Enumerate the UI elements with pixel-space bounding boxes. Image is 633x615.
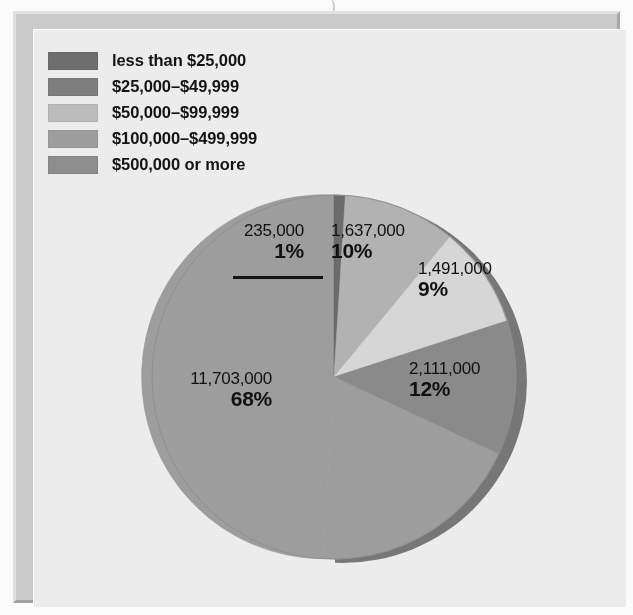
data-label-10pct: 1,637,000 10% bbox=[331, 222, 405, 262]
legend-item-1[interactable]: $25,000–$49,999 bbox=[48, 74, 257, 99]
legend-item-4[interactable]: $500,000 or more bbox=[48, 152, 257, 177]
data-label-1pct-value: 235,000 bbox=[184, 222, 304, 240]
legend-swatch-4 bbox=[48, 156, 98, 174]
chart-frame-border: less than $25,000 $25,000–$49,999 $50,00… bbox=[13, 11, 620, 603]
legend-label-2: $50,000–$99,999 bbox=[112, 103, 239, 122]
data-label-9pct: 1,491,000 9% bbox=[418, 260, 492, 300]
legend-swatch-2 bbox=[48, 104, 98, 122]
legend-label-4: $500,000 or more bbox=[112, 155, 245, 174]
legend-item-2[interactable]: $50,000–$99,999 bbox=[48, 100, 257, 125]
data-label-68pct-value: 11,703,000 bbox=[82, 370, 272, 388]
legend: less than $25,000 $25,000–$49,999 $50,00… bbox=[48, 48, 257, 178]
legend-swatch-1 bbox=[48, 78, 98, 96]
data-label-9pct-value: 1,491,000 bbox=[418, 260, 492, 278]
data-label-12pct: 2,111,000 12% bbox=[409, 360, 480, 400]
legend-swatch-0 bbox=[48, 52, 98, 70]
legend-label-3: $100,000–$499,999 bbox=[112, 129, 257, 148]
data-label-1pct-percent: 1% bbox=[184, 240, 304, 262]
data-label-68pct: 11,703,000 68% bbox=[82, 370, 272, 410]
legend-label-0: less than $25,000 bbox=[112, 51, 246, 70]
legend-label-1: $25,000–$49,999 bbox=[112, 77, 239, 96]
data-label-12pct-percent: 12% bbox=[409, 378, 480, 400]
data-label-68pct-percent: 68% bbox=[82, 388, 272, 410]
data-label-10pct-percent: 10% bbox=[331, 240, 405, 262]
data-label-1pct: 235,000 1% bbox=[184, 222, 304, 262]
data-label-9pct-percent: 9% bbox=[418, 278, 492, 300]
legend-swatch-3 bbox=[48, 130, 98, 148]
legend-item-3[interactable]: $100,000–$499,999 bbox=[48, 126, 257, 151]
chart-plate: less than $25,000 $25,000–$49,999 $50,00… bbox=[33, 29, 626, 607]
scan-page: ) bbox=[0, 0, 633, 615]
data-label-12pct-value: 2,111,000 bbox=[409, 360, 480, 378]
data-label-10pct-value: 1,637,000 bbox=[331, 222, 405, 240]
legend-item-0[interactable]: less than $25,000 bbox=[48, 48, 257, 73]
leader-line-1pct bbox=[233, 276, 323, 279]
